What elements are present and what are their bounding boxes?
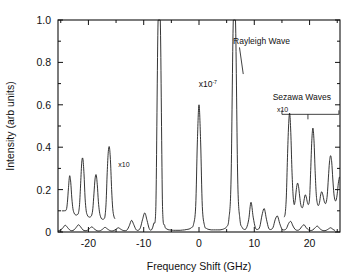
rayleigh-wave-label: Rayleigh Wave <box>233 36 290 46</box>
x-tick-label: -10 <box>136 237 151 249</box>
x-tick-label: -20 <box>81 237 96 249</box>
x-tick-label: 10 <box>248 237 260 249</box>
sezawa-waves-label: Sezawa Waves <box>273 92 331 102</box>
y-tick-label: 0 <box>45 226 51 238</box>
y-tick-label: 0.8 <box>36 56 51 68</box>
spectrum-chart: -20-1001020 00.20.40.60.81.0 Rayleigh Wa… <box>0 0 360 276</box>
x-tick-label: 20 <box>304 237 316 249</box>
sezawa-right-scale-label: x10 <box>277 106 288 113</box>
chart-background <box>0 0 360 276</box>
x-tick-label: 0 <box>196 237 202 249</box>
brillouin-spectrum-figure: -20-1001020 00.20.40.60.81.0 Rayleigh Wa… <box>0 0 360 276</box>
x-axis-title: Frequency Shift (GHz) <box>147 260 251 272</box>
y-tick-label: 1.0 <box>36 14 51 26</box>
sezawa-left-scale-label: x10 <box>118 161 129 168</box>
y-tick-label: 0.4 <box>36 141 51 153</box>
y-tick-label: 0.2 <box>36 184 51 196</box>
y-tick-label: 0.6 <box>36 99 51 111</box>
y-axis-title: Intensity (arb units) <box>4 81 16 170</box>
